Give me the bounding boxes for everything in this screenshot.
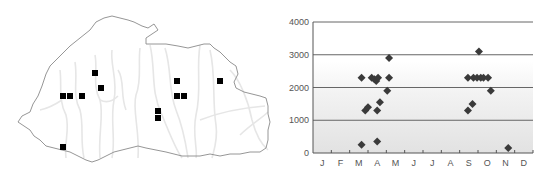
x-tick-label: M <box>392 158 400 168</box>
distribution-map <box>0 0 290 177</box>
y-tick-label: 3000 <box>289 50 309 60</box>
map-marker <box>60 93 66 99</box>
y-tick-label: 1000 <box>289 115 309 125</box>
map-marker <box>174 78 180 84</box>
y-tick-label: 2000 <box>289 83 309 93</box>
map-marker <box>92 70 98 76</box>
map-marker <box>67 93 73 99</box>
x-tick-label: J <box>412 158 417 168</box>
map-marker <box>174 93 180 99</box>
x-tick-label: N <box>502 158 509 168</box>
y-tick-label: 4000 <box>289 17 309 27</box>
map-marker <box>155 108 161 114</box>
x-tick-label: J <box>430 158 435 168</box>
map-marker <box>181 93 187 99</box>
map-marker <box>155 115 161 121</box>
map-marker <box>217 78 223 84</box>
x-tick-label: F <box>338 158 344 168</box>
x-tick-label: A <box>447 158 453 168</box>
map-marker <box>79 93 85 99</box>
map-marker <box>98 85 104 91</box>
elevation-by-month-chart: 01000200030004000 JFMAMJJASOND <box>280 0 554 177</box>
x-tick-label: D <box>521 158 528 168</box>
x-tick-label: A <box>374 158 380 168</box>
map-marker <box>60 144 66 150</box>
country-outline <box>18 16 270 162</box>
river-network <box>40 45 268 158</box>
x-tick-label: J <box>320 158 325 168</box>
y-axis-labels: 01000200030004000 <box>289 17 309 158</box>
x-tick-label: O <box>484 158 491 168</box>
x-tick-label: S <box>466 158 472 168</box>
x-tick-label: M <box>355 158 363 168</box>
y-tick-label: 0 <box>304 148 309 158</box>
